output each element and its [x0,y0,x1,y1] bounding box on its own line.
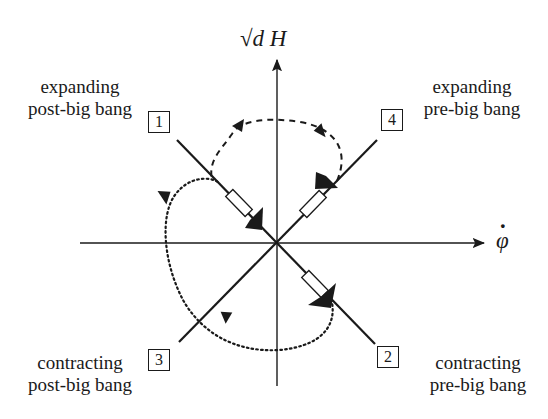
dashed-curve-arrow-right [313,122,328,137]
dotted-curve-arrow-left [158,186,176,205]
quadrant-3-line2: post-big bang [18,374,142,396]
y-axis-label: √d H [240,26,286,52]
branch-number-4: 4 [381,109,403,131]
quadrant-2-line1: contracting [420,352,536,374]
branch-4-marker [300,190,327,217]
duality-diagram: √d H φ · expanding post-big bang 1 expan… [0,0,548,419]
x-axis-label-dot: · [499,214,507,240]
dashed-curve-arrow-left [232,119,244,132]
quadrant-4-line2: pre-big bang [416,98,528,120]
branch-4-arrow [315,172,338,189]
branch-number-3: 3 [148,349,170,371]
branch-2-marker [302,270,329,297]
dotted-curve-arrow-bottom [217,307,233,324]
quadrant-3-label: contracting post-big bang [18,352,142,396]
quadrant-2-line2: pre-big bang [420,374,536,396]
x-axis-label: φ · [496,228,509,254]
quadrant-1-label: expanding post-big bang [18,76,142,120]
quadrant-1-line2: post-big bang [18,98,142,120]
branch-3-4 [179,140,377,342]
quadrant-3-line1: contracting [18,352,142,374]
branch-number-2: 2 [377,346,399,368]
quadrant-2-label: contracting pre-big bang [420,352,536,396]
quadrant-1-line1: expanding [18,76,142,98]
quadrant-4-label: expanding pre-big bang [416,76,528,120]
branch-number-1: 1 [148,111,170,133]
branch-1-marker [226,189,253,216]
quadrant-4-line1: expanding [416,76,528,98]
